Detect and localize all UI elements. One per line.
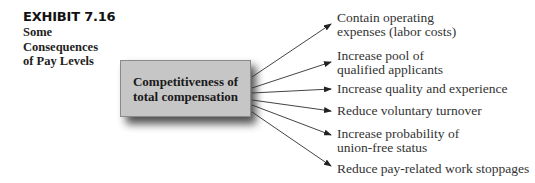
consequence-turnover: Reduce voluntary turnover [337,104,482,118]
consequence-work-stoppages: Reduce pay-related work stoppages [337,162,529,176]
consequence-applicant-pool: Increase pool of qualified applicants [337,49,443,77]
box-label-line: total compensation [133,89,238,104]
consequence-union-free: Increase probability of union-free statu… [337,127,459,155]
consequence-labor-costs: Contain operating expenses (labor costs) [337,11,456,39]
competitiveness-box: Competitiveness of total compensation [120,60,251,117]
arrow-1 [252,24,331,77]
arrow-3 [252,89,331,93]
arrow-2 [252,62,331,88]
box-label-line: Competitiveness of [133,74,238,89]
consequence-quality: Increase quality and experience [337,82,508,96]
